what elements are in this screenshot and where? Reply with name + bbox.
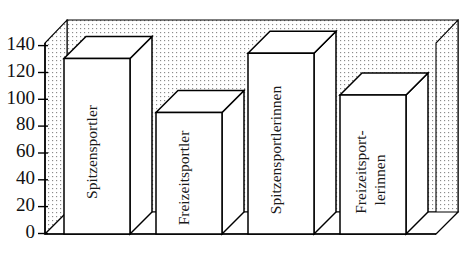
- bar-4-label-line-1: Freizeitsport-: [352, 130, 369, 214]
- y-tick-label-0: 0: [26, 221, 36, 242]
- bar-1-label: Spitzensportler: [83, 104, 100, 199]
- bar-group-4[interactable]: Freizeitsport- lerinnen: [340, 73, 428, 234]
- bar-4-label-line-2: lerinnen: [371, 154, 388, 205]
- bar-2-side: [222, 91, 244, 235]
- bar-3-side: [314, 31, 336, 234]
- bar-4-side: [406, 73, 428, 234]
- y-tick-label-120: 120: [7, 60, 36, 81]
- y-tick-label-60: 60: [16, 140, 35, 161]
- bar-group-1[interactable]: Spitzensportler: [64, 37, 152, 235]
- bar-group-3[interactable]: Spitzensportlerinnen: [248, 31, 336, 234]
- y-tick-label-40: 40: [16, 167, 35, 188]
- bar-1-side: [130, 37, 152, 235]
- y-tick-label-20: 20: [16, 194, 35, 215]
- right-wall: [436, 20, 458, 234]
- bar-2-label: Freizeitsportler: [175, 130, 192, 226]
- y-tick-label-80: 80: [16, 113, 35, 134]
- bar-group-2[interactable]: Freizeitsportler: [156, 91, 244, 235]
- y-tick-label-100: 100: [7, 87, 36, 108]
- bar-chart-figure: 140 120 100 80 60 40 20 0 Spitzensportle…: [0, 0, 469, 257]
- y-tick-label-140: 140: [7, 33, 36, 54]
- chart-canvas: 140 120 100 80 60 40 20 0 Spitzensportle…: [0, 0, 469, 257]
- bar-3-label: Spitzensportlerinnen: [267, 86, 284, 215]
